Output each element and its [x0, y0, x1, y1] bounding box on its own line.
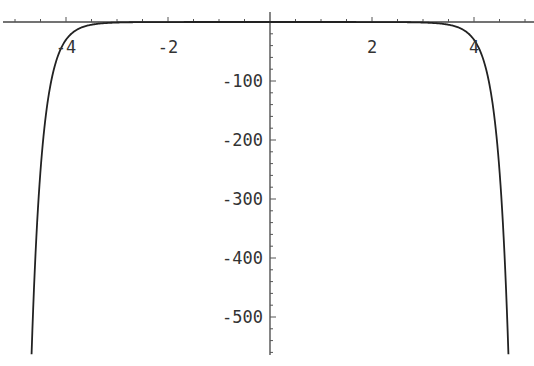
- y-tick-label: -500: [222, 307, 263, 327]
- x-tick-label: -4: [56, 37, 76, 57]
- plot-area: -4 -2 2 4 -100 -200 -300 -400 -500: [0, 0, 534, 366]
- x-tick-label: 4: [469, 37, 479, 57]
- y-tick-labels: -100 -200 -300 -400 -500: [222, 71, 263, 327]
- x-tick-label: 2: [367, 37, 377, 57]
- x-tick-labels: -4 -2 2 4: [56, 37, 479, 57]
- y-tick-label: -100: [222, 71, 263, 91]
- axes: [3, 12, 534, 355]
- y-ticks: [270, 34, 276, 353]
- y-tick-label: -300: [222, 189, 263, 209]
- x-tick-label: -2: [158, 37, 178, 57]
- y-tick-label: -200: [222, 130, 263, 150]
- y-tick-label: -400: [222, 248, 263, 268]
